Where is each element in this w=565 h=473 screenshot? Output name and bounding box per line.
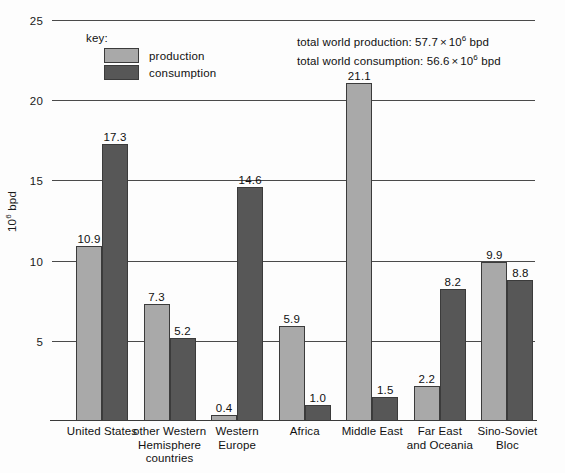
bar-group: 5.91.0 [279,20,331,421]
bar-production[interactable]: 5.9 [279,326,305,421]
y-tick-label-10: 10 [30,256,43,268]
totals-annotation: total world production: 57.7×106 bpd tot… [297,31,501,69]
legend-swatch-consumption [104,65,139,80]
bar-value-label: 14.6 [239,174,262,186]
bar-consumption[interactable]: 1.0 [305,405,331,421]
y-tick-label-15: 15 [30,175,43,187]
legend-item-production: production [86,48,216,63]
x-axis-label-line: Sino-Soviet [452,425,562,439]
bar-group: 21.11.5 [346,20,398,421]
bar-value-label: 7.3 [148,291,165,303]
bar-consumption[interactable]: 8.2 [440,289,466,421]
x-axis-label-line: countries [115,452,225,466]
x-axis-label: Sino-SovietBloc [452,425,562,452]
legend-label-consumption: consumption [149,67,216,79]
bar-value-label: 10.9 [77,233,100,245]
bar-consumption[interactable]: 17.3 [102,144,128,421]
bar-value-label: 1.0 [309,392,326,404]
y-axis-title-exponent: 6 [4,214,13,219]
bar-value-label: 5.2 [174,325,191,337]
bar-value-label: 8.2 [445,276,462,288]
y-axis-title-unit: bpd [6,191,18,214]
total-world-production: total world production: 57.7×106 bpd [297,31,501,50]
bar-production[interactable]: 21.1 [346,83,372,421]
bar-production[interactable]: 9.9 [481,262,507,421]
bar-consumption[interactable]: 5.2 [170,338,196,421]
legend-title: key: [86,32,216,44]
bar-value-label: 8.8 [512,267,529,279]
legend: key: production consumption [86,32,216,80]
bar-production[interactable]: 2.2 [414,386,440,421]
total-world-consumption: total world consumption: 56.6×106 bpd [297,50,501,69]
y-tick-label-20: 20 [30,95,43,107]
bar-value-label: 2.2 [419,373,436,385]
x-axis-label-line: Bloc [452,439,562,453]
bar-consumption[interactable]: 8.8 [507,280,533,421]
bar-value-label: 5.9 [283,313,300,325]
legend-item-consumption: consumption [86,65,216,80]
legend-label-production: production [149,50,205,62]
legend-swatch-production [104,48,139,63]
y-tick-label-25: 25 [30,15,43,27]
multiplication-sign-icon: × [451,55,458,67]
bar-consumption[interactable]: 1.5 [372,397,398,421]
x-axis-label-line: Europe [182,439,292,453]
bar-value-label: 1.5 [377,384,394,396]
bar-value-label: 0.4 [216,402,233,414]
bar-group: 2.28.2 [414,20,466,421]
total-production-base: 10 [449,36,462,48]
bar-value-label: 9.9 [486,249,503,261]
chart-figure: 106 bpd 510152025 10.917.37.35.20.414.65… [0,0,565,473]
bar-production[interactable]: 10.9 [76,246,102,421]
y-axis-title-base: 10 [6,219,18,232]
bar-group: 10.917.3 [76,20,128,421]
bar-group: 9.98.8 [481,20,533,421]
total-consumption-base: 10 [460,55,473,67]
total-production-text: total world production: 57.7 [297,36,438,48]
bar-production[interactable]: 0.4 [211,415,237,421]
bar-value-label: 17.3 [103,131,126,143]
y-axis-title: 106 bpd [4,191,18,232]
total-production-unit: bpd [466,36,489,48]
plot-area: 510152025 10.917.37.35.20.414.65.91.021.… [52,20,535,421]
total-consumption-text: total world consumption: 56.6 [297,55,449,67]
bar-consumption[interactable]: 14.6 [237,187,263,421]
bar-group: 0.414.6 [211,20,263,421]
multiplication-sign-icon: × [440,36,447,48]
bar-group: 7.35.2 [144,20,196,421]
bar-value-label: 21.1 [348,70,371,82]
y-tick-label-5: 5 [36,336,43,348]
total-consumption-unit: bpd [478,55,501,67]
bar-production[interactable]: 7.3 [144,304,170,421]
